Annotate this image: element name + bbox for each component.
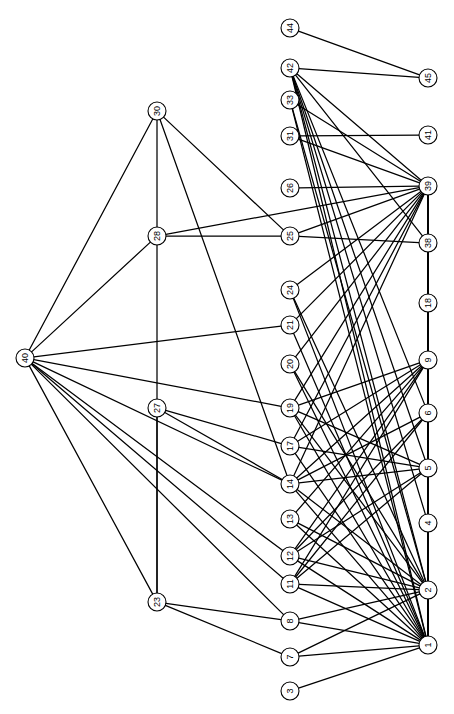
graph-node[interactable]: 25	[281, 227, 299, 245]
graph-node[interactable]: 11	[281, 575, 299, 593]
graph-edge	[299, 135, 419, 136]
graph-edge	[29, 119, 153, 350]
node-label: 19	[285, 403, 295, 413]
network-graph: 4442333126252421201917141312118734541393…	[0, 0, 454, 714]
node-label: 12	[285, 551, 295, 561]
node-label: 33	[285, 95, 295, 105]
graph-edge	[166, 410, 282, 443]
graph-node[interactable]: 38	[419, 234, 437, 252]
graph-edge	[164, 117, 284, 230]
node-label: 5	[423, 465, 433, 470]
graph-node[interactable]: 39	[419, 177, 437, 195]
node-label: 25	[285, 231, 295, 241]
graph-node[interactable]: 6	[419, 404, 437, 422]
graph-node[interactable]: 7	[281, 648, 299, 666]
node-label: 28	[152, 231, 162, 241]
graph-node[interactable]: 2	[419, 581, 437, 599]
edges-layer	[29, 31, 428, 688]
node-label: 21	[285, 320, 295, 330]
node-label: 39	[423, 181, 433, 191]
node-label: 9	[423, 357, 433, 362]
graph-node[interactable]: 40	[16, 349, 34, 367]
graph-node[interactable]: 13	[281, 510, 299, 528]
node-label: 18	[423, 298, 433, 308]
node-label: 7	[285, 654, 295, 659]
graph-edge	[299, 648, 420, 688]
graph-node[interactable]: 14	[281, 475, 299, 493]
node-label: 44	[285, 23, 295, 33]
graph-node[interactable]: 42	[281, 59, 299, 77]
graph-edge	[299, 186, 419, 188]
graph-node[interactable]: 27	[148, 399, 166, 417]
node-label: 27	[152, 403, 162, 413]
graph-edge	[32, 242, 151, 352]
graph-edge	[294, 194, 424, 476]
graph-node[interactable]: 12	[281, 547, 299, 565]
graph-edge	[299, 69, 419, 78]
graph-edge	[165, 412, 282, 479]
graph-node[interactable]: 9	[419, 351, 437, 369]
graph-edge	[166, 603, 281, 619]
graph-node[interactable]: 8	[281, 612, 299, 630]
graph-edge	[298, 594, 420, 653]
node-label: 1	[423, 642, 433, 647]
graph-edge	[295, 194, 424, 401]
graph-edge	[298, 139, 419, 183]
graph-node[interactable]: 17	[281, 437, 299, 455]
graph-node[interactable]: 33	[281, 91, 299, 109]
node-label: 4	[423, 520, 433, 525]
graph-edge	[296, 75, 423, 236]
node-label: 23	[152, 597, 162, 607]
node-label: 45	[423, 73, 433, 83]
graph-node[interactable]: 1	[419, 636, 437, 654]
graph-node[interactable]: 41	[419, 126, 437, 144]
node-label: 42	[285, 63, 295, 73]
graph-node[interactable]: 3	[281, 682, 299, 700]
graph-node[interactable]: 31	[281, 127, 299, 145]
node-label: 24	[285, 285, 295, 295]
graph-node[interactable]: 20	[281, 355, 299, 373]
node-label: 31	[285, 131, 295, 141]
nodes-layer: 4442333126252421201917141312118734541393…	[16, 19, 437, 700]
network-graph-canvas: 4442333126252421201917141312118734541393…	[0, 0, 454, 714]
graph-node[interactable]: 23	[148, 593, 166, 611]
node-label: 38	[423, 238, 433, 248]
graph-edge	[29, 366, 152, 594]
graph-edge	[293, 298, 424, 636]
graph-edge	[165, 605, 281, 653]
graph-node[interactable]: 19	[281, 399, 299, 417]
node-label: 41	[423, 130, 433, 140]
graph-edge	[297, 191, 421, 284]
node-label: 8	[285, 618, 295, 623]
graph-node[interactable]: 28	[148, 227, 166, 245]
node-label: 17	[285, 441, 295, 451]
graph-edge	[294, 194, 424, 438]
node-label: 30	[152, 106, 162, 116]
graph-node[interactable]: 4	[419, 514, 437, 532]
node-label: 11	[285, 579, 295, 588]
node-label: 20	[285, 359, 295, 369]
graph-edge	[296, 193, 423, 357]
graph-edge	[299, 584, 419, 589]
node-label: 2	[423, 587, 433, 592]
graph-node[interactable]: 45	[419, 69, 437, 87]
graph-node[interactable]: 44	[281, 19, 299, 37]
graph-node[interactable]: 24	[281, 281, 299, 299]
node-label: 14	[285, 479, 295, 489]
graph-node[interactable]: 21	[281, 316, 299, 334]
graph-node[interactable]: 18	[419, 294, 437, 312]
node-label: 3	[285, 688, 295, 693]
node-label: 26	[285, 183, 295, 193]
graph-node[interactable]: 5	[419, 459, 437, 477]
node-label: 6	[423, 410, 433, 415]
node-label: 40	[20, 353, 30, 363]
graph-edge	[298, 31, 419, 75]
graph-node[interactable]: 30	[148, 102, 166, 120]
node-label: 13	[285, 514, 295, 524]
graph-node[interactable]: 26	[281, 179, 299, 197]
